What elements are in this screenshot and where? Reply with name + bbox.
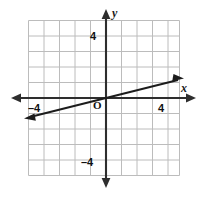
- y-tick-label-4: 4: [90, 30, 97, 42]
- x-tick-label-4: 4: [158, 102, 165, 114]
- x-axis-label: x: [180, 81, 187, 95]
- x-axis-left-arrowhead: [11, 94, 21, 103]
- origin-label: O: [93, 99, 102, 111]
- graph-canvas: y x O –4 4 4 –4: [0, 0, 203, 197]
- line-left-arrowhead: [24, 114, 36, 121]
- y-axis-bottom-arrowhead: [102, 178, 111, 188]
- y-tick-label-negative-4: –4: [81, 156, 94, 168]
- x-axis-right-arrowhead: [186, 94, 196, 103]
- x-tick-label-negative-4: –4: [28, 102, 41, 114]
- y-axis-label: y: [110, 6, 118, 20]
- y-axis-top-arrowhead: [102, 9, 111, 19]
- coordinate-plane-figure: y x O –4 4 4 –4: [0, 0, 203, 197]
